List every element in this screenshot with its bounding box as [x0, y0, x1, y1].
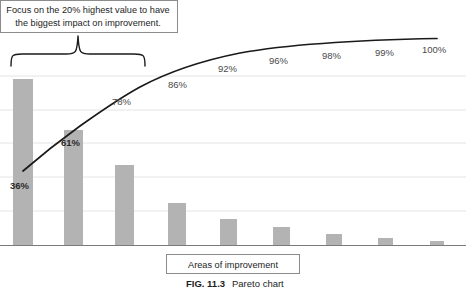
cumulative-line	[23, 39, 437, 172]
bar	[326, 234, 342, 245]
bar	[378, 238, 393, 245]
figure-number: FIG. 11.3	[186, 278, 225, 288]
x-axis-title-label: Areas of improvement	[188, 260, 278, 270]
bar-series	[13, 79, 444, 245]
cumulative-label: 78%	[112, 96, 132, 107]
cumulative-label: 61%	[61, 137, 81, 148]
figure-caption: FIG. 11.3 Pareto chart	[186, 278, 284, 288]
cumulative-label: 100%	[422, 44, 447, 55]
curly-brace-icon	[11, 36, 145, 66]
cumulative-label: 96%	[269, 55, 289, 66]
x-axis-title-group: Areas of improvement	[167, 255, 300, 274]
pareto-chart-figure: 36% 61% 78% 86% 92% 96% 98% 99% 100% Foc…	[0, 0, 466, 288]
callout-line-2: the biggest impact on improvement.	[15, 18, 161, 28]
cumulative-label: 92%	[218, 63, 238, 74]
bar	[115, 165, 134, 245]
callout-annotation: Focus on the 20% highest value to have t…	[1, 1, 178, 33]
cumulative-label: 86%	[168, 79, 188, 90]
figure-caption-text: Pareto chart	[232, 278, 284, 288]
bar	[273, 227, 290, 245]
bar	[430, 241, 444, 245]
callout-line-1: Focus on the 20% highest value to have	[6, 5, 169, 15]
cumulative-label: 36%	[10, 180, 30, 191]
pareto-chart-canvas: 36% 61% 78% 86% 92% 96% 98% 99% 100% Foc…	[0, 0, 466, 288]
bar	[168, 203, 186, 245]
cumulative-label: 98%	[322, 50, 342, 61]
cumulative-label: 99%	[375, 47, 395, 58]
bar	[220, 219, 237, 245]
brace-annotation	[11, 36, 145, 66]
bar	[13, 79, 33, 245]
